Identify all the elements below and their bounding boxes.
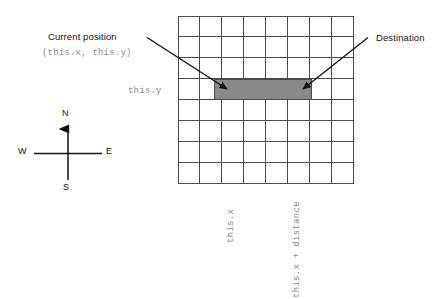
compass-west-label: W	[18, 146, 27, 156]
destination-arrow-icon	[303, 38, 368, 90]
destination-label: Destination	[376, 32, 425, 43]
current-position-label: Current position	[48, 31, 117, 42]
diagram-canvas: Current position (this.x, this.y) Destin…	[0, 0, 441, 299]
x-axis-start-label: this.x	[226, 209, 236, 243]
current-position-coordinates: (this.x, this.y)	[42, 48, 132, 58]
compass-south-label: S	[63, 182, 69, 192]
compass-north-label: N	[62, 108, 69, 118]
y-axis-label: this.y	[128, 86, 162, 96]
current-position-arrow-icon	[147, 38, 227, 90]
compass-rose: N S W E	[18, 108, 118, 194]
compass-east-label: E	[106, 146, 112, 156]
x-axis-end-label: this.x + distance	[292, 201, 302, 298]
